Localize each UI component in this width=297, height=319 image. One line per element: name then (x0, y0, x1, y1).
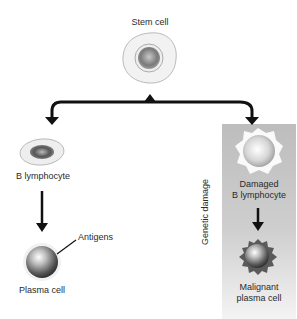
arrow-head-icon (45, 117, 59, 125)
stem-cell-icon (123, 33, 176, 83)
branch-tip-icon (144, 94, 156, 102)
diagram-graphics (0, 0, 297, 319)
damaged-label-line1: Damaged (222, 179, 296, 190)
plasma-cell-label: Plasma cell (10, 285, 74, 296)
antigens-label: Antigens (78, 232, 113, 243)
arrow-head-icon (36, 223, 48, 232)
malignant-label-line1: Malignant (222, 282, 296, 293)
antigens-pointer (57, 240, 76, 254)
stem-cell-label: Stem cell (118, 17, 182, 28)
damaged-label-line2: B lymphocyte (222, 190, 296, 201)
genetic-damage-label: Genetic damage (200, 179, 210, 245)
arrow-head-icon (252, 222, 264, 231)
damaged-b-lymphocyte-label: Damaged B lymphocyte (222, 179, 296, 201)
damaged-b-lymphocyte-icon (235, 128, 283, 174)
malignant-label-line2: plasma cell (222, 293, 296, 304)
malignant-plasma-cell-label: Malignant plasma cell (222, 282, 296, 304)
b-lymphocyte-icon (19, 137, 65, 167)
branch-arrow (52, 102, 252, 119)
plasma-cell-icon (26, 246, 58, 278)
b-lymphocyte-label: B lymphocyte (8, 171, 78, 182)
malignant-plasma-cell-icon (239, 239, 277, 275)
arrow-head-icon (245, 117, 259, 125)
